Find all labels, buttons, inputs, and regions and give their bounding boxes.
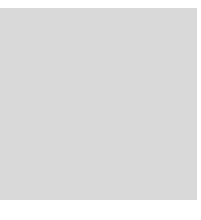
board-background (0, 8, 197, 200)
go-board-diagram (0, 0, 201, 220)
